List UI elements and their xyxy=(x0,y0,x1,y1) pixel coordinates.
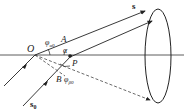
label-O: O xyxy=(27,43,34,54)
label-phi-alpha0: φα0 xyxy=(45,38,55,48)
diffraction-diagram: O φα0 A α P B φβ0 s s0 xyxy=(0,0,184,109)
label-alpha: α xyxy=(63,46,68,55)
label-s: s xyxy=(132,1,136,11)
ring-ellipse xyxy=(145,9,171,103)
label-s0: s0 xyxy=(30,99,37,109)
dashed-O-to-ring xyxy=(35,55,150,100)
arrow-incoming-s0 xyxy=(43,81,48,86)
label-A: A xyxy=(60,34,67,44)
arrow-incoming-O xyxy=(22,64,27,69)
dashed-O-to-B xyxy=(35,55,65,76)
ray-incoming-O xyxy=(4,55,35,86)
label-phi-b0: φβ0 xyxy=(64,75,74,85)
ray-s-from-P xyxy=(70,21,152,57)
angle-arc-phi-alpha0 xyxy=(48,49,50,55)
label-B: B xyxy=(56,74,62,84)
diagram-canvas: O φα0 A α P B φβ0 s s0 xyxy=(0,0,184,109)
label-P: P xyxy=(71,58,78,68)
